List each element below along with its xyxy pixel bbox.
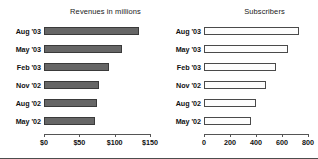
bar-row: Aug '02 <box>44 94 150 112</box>
category-label-subscribers: May '02 <box>176 117 201 126</box>
bar-subscribers <box>204 45 288 53</box>
category-label-revenues: May '03 <box>16 45 41 54</box>
bar-row: Aug '03 <box>44 22 150 40</box>
x-tick-label-subscribers: 800 <box>302 138 314 147</box>
x-tick-revenues <box>79 134 80 137</box>
x-tick-subscribers <box>256 134 257 137</box>
plot-area-subscribers: Aug '03May '03Feb '03Nov '02Aug '02May '… <box>204 22 308 130</box>
x-tick-label-revenues: $50 <box>73 138 85 147</box>
bar-subscribers <box>204 99 256 107</box>
x-tick-label-subscribers: 0 <box>202 138 206 147</box>
x-tick-revenues <box>150 134 151 137</box>
x-tick-label-subscribers: 200 <box>224 138 236 147</box>
chart-title-subscribers: Subscribers <box>159 7 318 16</box>
x-tick-revenues <box>115 134 116 137</box>
bar-revenues <box>44 117 95 125</box>
bar-row: May '02 <box>204 112 308 130</box>
bar-subscribers <box>204 117 251 125</box>
x-tick-subscribers <box>308 134 309 137</box>
bar-revenues <box>44 81 99 89</box>
x-tick-revenues <box>44 134 45 137</box>
x-tick-subscribers <box>204 134 205 137</box>
x-tick-label-subscribers: 400 <box>250 138 262 147</box>
category-label-revenues: Aug '02 <box>16 99 41 108</box>
bar-row: May '03 <box>204 40 308 58</box>
x-tick-subscribers <box>230 134 231 137</box>
bar-row: Nov '02 <box>44 76 150 94</box>
x-tick-label-revenues: $0 <box>40 138 48 147</box>
category-label-revenues: May '02 <box>16 117 41 126</box>
plot-area-revenues: Aug '03May '03Feb '03Nov '02Aug '02May '… <box>44 22 150 130</box>
category-label-subscribers: May '03 <box>176 45 201 54</box>
bar-row: Aug '02 <box>204 94 308 112</box>
bar-row: Feb '03 <box>44 58 150 76</box>
x-tick-label-subscribers: 600 <box>276 138 288 147</box>
x-tick-subscribers <box>282 134 283 137</box>
bar-row: May '02 <box>44 112 150 130</box>
category-label-subscribers: Aug '02 <box>176 99 201 108</box>
x-tick-label-revenues: $100 <box>107 138 123 147</box>
category-label-subscribers: Feb '03 <box>177 63 201 72</box>
category-label-subscribers: Aug '03 <box>176 27 201 36</box>
figure-canvas: Revenues in millions Aug '03May '03Feb '… <box>0 0 318 159</box>
bar-row: Aug '03 <box>204 22 308 40</box>
category-label-revenues: Nov '02 <box>16 81 41 90</box>
category-label-revenues: Feb '03 <box>17 63 41 72</box>
bar-revenues <box>44 27 139 35</box>
bar-subscribers <box>204 81 266 89</box>
bar-revenues <box>44 63 109 71</box>
category-label-revenues: Aug '03 <box>16 27 41 36</box>
bar-row: May '03 <box>44 40 150 58</box>
figure-bottom-border <box>0 158 318 159</box>
bar-revenues <box>44 99 97 107</box>
bar-row: Nov '02 <box>204 76 308 94</box>
chart-panel-revenues: Revenues in millions Aug '03May '03Feb '… <box>0 0 159 159</box>
bar-subscribers <box>204 27 299 35</box>
category-label-subscribers: Nov '02 <box>176 81 201 90</box>
x-tick-label-revenues: $150 <box>142 138 158 147</box>
chart-title-revenues: Revenues in millions <box>0 7 185 16</box>
x-axis-revenues <box>44 134 150 135</box>
chart-panel-subscribers: Subscribers Aug '03May '03Feb '03Nov '02… <box>159 0 318 159</box>
bar-row: Feb '03 <box>204 58 308 76</box>
bar-revenues <box>44 45 122 53</box>
bar-subscribers <box>204 63 276 71</box>
